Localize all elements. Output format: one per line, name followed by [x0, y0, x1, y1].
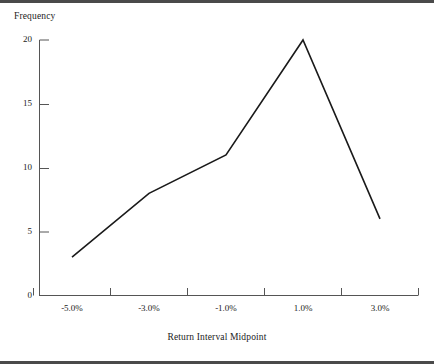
y-tick-label-15: 15	[6, 98, 32, 108]
chart-screenshot: 20 15 10 5 0 -5.0% -3.0% -1.0% 1.0% 3.0%…	[0, 0, 434, 364]
y-tick-label-0: 0	[6, 290, 32, 300]
frequency-line	[72, 40, 380, 257]
x-axis-ticks	[34, 288, 419, 296]
x-tick-label-minus-5: -5.0%	[42, 303, 102, 313]
y-tick-label-5: 5	[6, 226, 32, 236]
y-tick-label-10: 10	[6, 162, 32, 172]
x-axis-title: Return Interval Midpoint	[0, 332, 434, 342]
x-tick-label-plus-3: 3.0%	[350, 303, 410, 313]
x-tick-label-minus-1: -1.0%	[196, 303, 256, 313]
y-axis-ticks	[40, 40, 50, 232]
y-tick-label-20: 20	[6, 34, 32, 44]
x-tick-label-plus-1: 1.0%	[273, 303, 333, 313]
plot-area: 20 15 10 5 0 -5.0% -3.0% -1.0% 1.0% 3.0%…	[0, 0, 434, 364]
y-axis-title: Frequency	[14, 11, 55, 21]
x-tick-label-minus-3: -3.0%	[119, 303, 179, 313]
